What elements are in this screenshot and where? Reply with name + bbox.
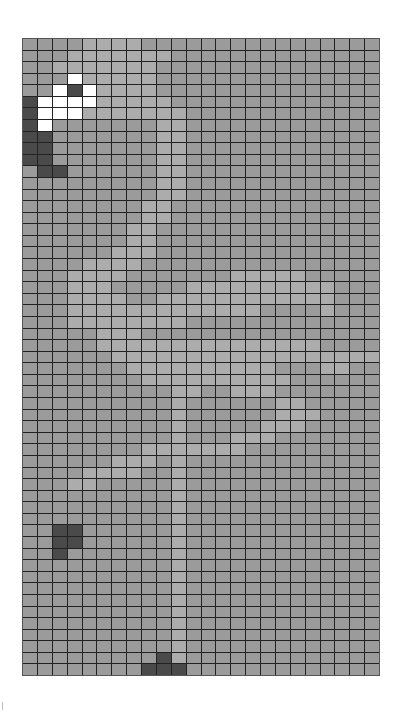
grid-cell-light[interactable] [157, 317, 171, 328]
grid-cell[interactable] [231, 51, 245, 62]
grid-cell[interactable] [246, 259, 260, 270]
grid-cell[interactable] [216, 641, 230, 652]
grid-cell[interactable] [276, 560, 290, 571]
grid-cell[interactable] [216, 549, 230, 560]
grid-cell[interactable] [83, 549, 97, 560]
grid-cell[interactable] [291, 618, 305, 629]
grid-cell[interactable] [127, 502, 141, 513]
grid-cell[interactable] [142, 39, 156, 50]
grid-cell-light[interactable] [157, 155, 171, 166]
grid-cell-light[interactable] [187, 340, 201, 351]
grid-cell[interactable] [335, 340, 349, 351]
grid-cell[interactable] [83, 375, 97, 386]
grid-cell[interactable] [202, 386, 216, 397]
grid-cell[interactable] [246, 224, 260, 235]
grid-cell-light[interactable] [97, 259, 111, 270]
grid-cell[interactable] [157, 560, 171, 571]
grid-cell[interactable] [321, 398, 335, 409]
grid-cell[interactable] [187, 85, 201, 96]
grid-cell[interactable] [365, 201, 379, 212]
grid-cell[interactable] [291, 572, 305, 583]
grid-cell[interactable] [157, 282, 171, 293]
grid-cell[interactable] [246, 491, 260, 502]
grid-cell[interactable] [365, 340, 379, 351]
grid-cell[interactable] [321, 479, 335, 490]
grid-cell[interactable] [365, 514, 379, 525]
grid-cell[interactable] [261, 410, 275, 421]
grid-cell-light[interactable] [321, 282, 335, 293]
grid-cell[interactable] [321, 607, 335, 618]
grid-cell-light[interactable] [172, 120, 186, 131]
grid-cell-light[interactable] [112, 259, 126, 270]
grid-cell[interactable] [23, 537, 37, 548]
grid-cell[interactable] [202, 410, 216, 421]
grid-cell-dark[interactable] [68, 525, 82, 536]
grid-cell[interactable] [231, 236, 245, 247]
grid-cell[interactable] [246, 514, 260, 525]
grid-cell[interactable] [335, 595, 349, 606]
grid-cell[interactable] [365, 39, 379, 50]
grid-cell[interactable] [53, 595, 67, 606]
grid-cell[interactable] [23, 595, 37, 606]
grid-cell-dark[interactable] [38, 143, 52, 154]
grid-cell[interactable] [365, 386, 379, 397]
grid-cell[interactable] [350, 340, 364, 351]
grid-cell[interactable] [350, 386, 364, 397]
grid-cell-light[interactable] [97, 294, 111, 305]
grid-cell[interactable] [68, 618, 82, 629]
grid-cell[interactable] [261, 132, 275, 143]
grid-cell-light[interactable] [83, 259, 97, 270]
grid-cell[interactable] [112, 132, 126, 143]
grid-cell[interactable] [321, 525, 335, 536]
grid-cell[interactable] [350, 583, 364, 594]
grid-cell[interactable] [261, 62, 275, 73]
grid-cell[interactable] [246, 560, 260, 571]
grid-cell[interactable] [321, 595, 335, 606]
grid-cell[interactable] [187, 39, 201, 50]
grid-cell[interactable] [350, 641, 364, 652]
grid-cell[interactable] [276, 595, 290, 606]
grid-cell[interactable] [202, 108, 216, 119]
grid-cell[interactable] [23, 468, 37, 479]
grid-cell[interactable] [216, 525, 230, 536]
grid-cell[interactable] [350, 178, 364, 189]
grid-cell[interactable] [306, 583, 320, 594]
grid-cell[interactable] [112, 363, 126, 374]
grid-cell[interactable] [127, 572, 141, 583]
grid-cell[interactable] [97, 456, 111, 467]
grid-cell[interactable] [187, 456, 201, 467]
grid-cell[interactable] [157, 62, 171, 73]
grid-cell[interactable] [202, 607, 216, 618]
grid-cell[interactable] [335, 514, 349, 525]
grid-cell-dark[interactable] [23, 155, 37, 166]
grid-cell[interactable] [53, 583, 67, 594]
grid-cell[interactable] [246, 421, 260, 432]
grid-cell[interactable] [365, 375, 379, 386]
grid-cell[interactable] [53, 213, 67, 224]
grid-cell-light[interactable] [172, 653, 186, 664]
grid-cell[interactable] [112, 641, 126, 652]
grid-cell[interactable] [187, 120, 201, 131]
grid-cell[interactable] [157, 491, 171, 502]
grid-cell[interactable] [97, 607, 111, 618]
grid-cell[interactable] [365, 630, 379, 641]
grid-cell[interactable] [306, 224, 320, 235]
grid-cell[interactable] [142, 190, 156, 201]
grid-cell[interactable] [68, 664, 82, 675]
grid-cell[interactable] [23, 74, 37, 85]
grid-cell-light[interactable] [231, 340, 245, 351]
grid-cell[interactable] [306, 479, 320, 490]
grid-cell[interactable] [321, 178, 335, 189]
grid-cell[interactable] [216, 51, 230, 62]
grid-cell[interactable] [350, 271, 364, 282]
grid-cell[interactable] [306, 630, 320, 641]
grid-cell[interactable] [335, 166, 349, 177]
grid-cell[interactable] [68, 247, 82, 258]
grid-cell-light[interactable] [172, 583, 186, 594]
grid-cell-light[interactable] [157, 213, 171, 224]
grid-cell[interactable] [350, 514, 364, 525]
grid-cell[interactable] [53, 352, 67, 363]
grid-cell[interactable] [216, 630, 230, 641]
grid-cell[interactable] [216, 664, 230, 675]
grid-cell[interactable] [321, 317, 335, 328]
